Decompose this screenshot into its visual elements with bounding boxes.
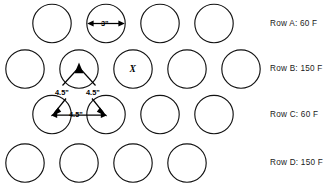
circle <box>222 50 260 88</box>
circle <box>33 4 71 42</box>
circle <box>6 50 44 88</box>
spacing-label-right-upper: 4.5" <box>86 89 100 96</box>
row-label-d: Row D: 150 F <box>270 159 323 167</box>
circle-array-diagram: 3" 4.5" 4.5" 4.5" X Row A: 60 F Row B: 1… <box>0 0 331 192</box>
circle <box>168 50 206 88</box>
center-marker-x: X <box>130 65 136 75</box>
circle <box>60 144 98 182</box>
circle <box>141 95 179 133</box>
row-c-circles <box>33 95 233 133</box>
circle <box>33 95 71 133</box>
row-label-c: Row C: 60 F <box>270 111 318 119</box>
row-label-b: Row B: 150 F <box>270 65 323 73</box>
circle <box>114 144 152 182</box>
circle <box>168 144 206 182</box>
circle <box>6 144 44 182</box>
circle <box>195 95 233 133</box>
row-b-triangle-annotation <box>63 63 96 86</box>
circle <box>87 95 125 133</box>
circle <box>141 4 179 42</box>
row-label-a: Row A: 60 F <box>270 20 317 28</box>
circle <box>195 4 233 42</box>
spacing-label-left-upper: 4.5" <box>55 89 69 96</box>
diameter-label: 3" <box>101 20 109 27</box>
spacing-label-horizontal: 4.5" <box>69 111 83 118</box>
row-d-circles <box>6 144 206 182</box>
row-a-circles <box>33 4 233 42</box>
